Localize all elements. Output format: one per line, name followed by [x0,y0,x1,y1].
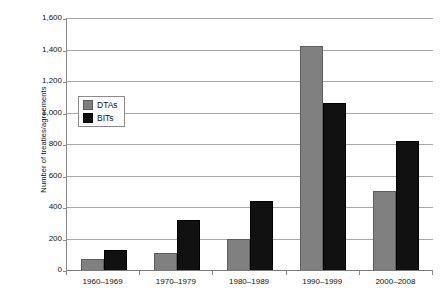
x-tick-0 [66,270,67,275]
bar-bits-2000–2008 [396,141,419,270]
bar-group [140,18,213,270]
chart-legend: DTAsBITs [78,96,125,127]
bar-group [287,18,360,270]
x-axis-tick-labels: 1960–19691970–19791980–19891990–19992000… [66,277,432,286]
bar-bits-1980–1989 [250,201,273,270]
x-tick-1 [139,270,140,275]
y-tick-label-1400: 1,400 [2,45,62,54]
bar-groups [67,18,433,270]
bar-group [360,18,433,270]
bar-chart: Number of treaties/agreements 0200400600… [0,0,445,301]
x-axis-label-1970–1979: 1970–1979 [139,277,212,286]
y-tick-label-400: 400 [2,202,62,211]
y-tick-label-1600: 1,600 [2,13,62,22]
y-tick-label-0: 0 [2,265,62,274]
x-axis-label-1960–1969: 1960–1969 [66,277,139,286]
x-tick-4 [359,270,360,275]
x-axis-label-1980–1989: 1980–1989 [212,277,285,286]
legend-item-bits: BITs [83,113,118,123]
x-tick-2 [212,270,213,275]
x-tick-5 [432,270,433,275]
bar-dtas-1960–1969 [81,259,104,270]
legend-swatch-gray [83,100,93,110]
x-axis-label-2000–2008: 2000–2008 [359,277,432,286]
legend-label-bits: BITs [97,114,114,123]
bar-dtas-1980–1989 [227,239,250,270]
y-tick-label-200: 200 [2,234,62,243]
bar-bits-1970–1979 [177,220,200,270]
legend-label-dtas: DTAs [97,101,118,110]
bar-dtas-2000–2008 [373,191,396,270]
y-tick-label-1000: 1,000 [2,108,62,117]
legend-item-dtas: DTAs [83,100,118,110]
x-tick-3 [286,270,287,275]
bar-bits-1960–1969 [104,250,127,270]
y-tick-label-1200: 1,200 [2,76,62,85]
bar-dtas-1990–1999 [300,46,323,270]
bar-group [67,18,140,270]
bar-dtas-1970–1979 [154,253,177,270]
y-tick-label-600: 600 [2,171,62,180]
y-tick-label-800: 800 [2,139,62,148]
bar-group [213,18,286,270]
x-axis-ticks [66,270,432,275]
bar-bits-1990–1999 [323,103,346,270]
legend-swatch-black [83,113,93,123]
plot-area [66,18,433,270]
x-axis-label-1990–1999: 1990–1999 [286,277,359,286]
